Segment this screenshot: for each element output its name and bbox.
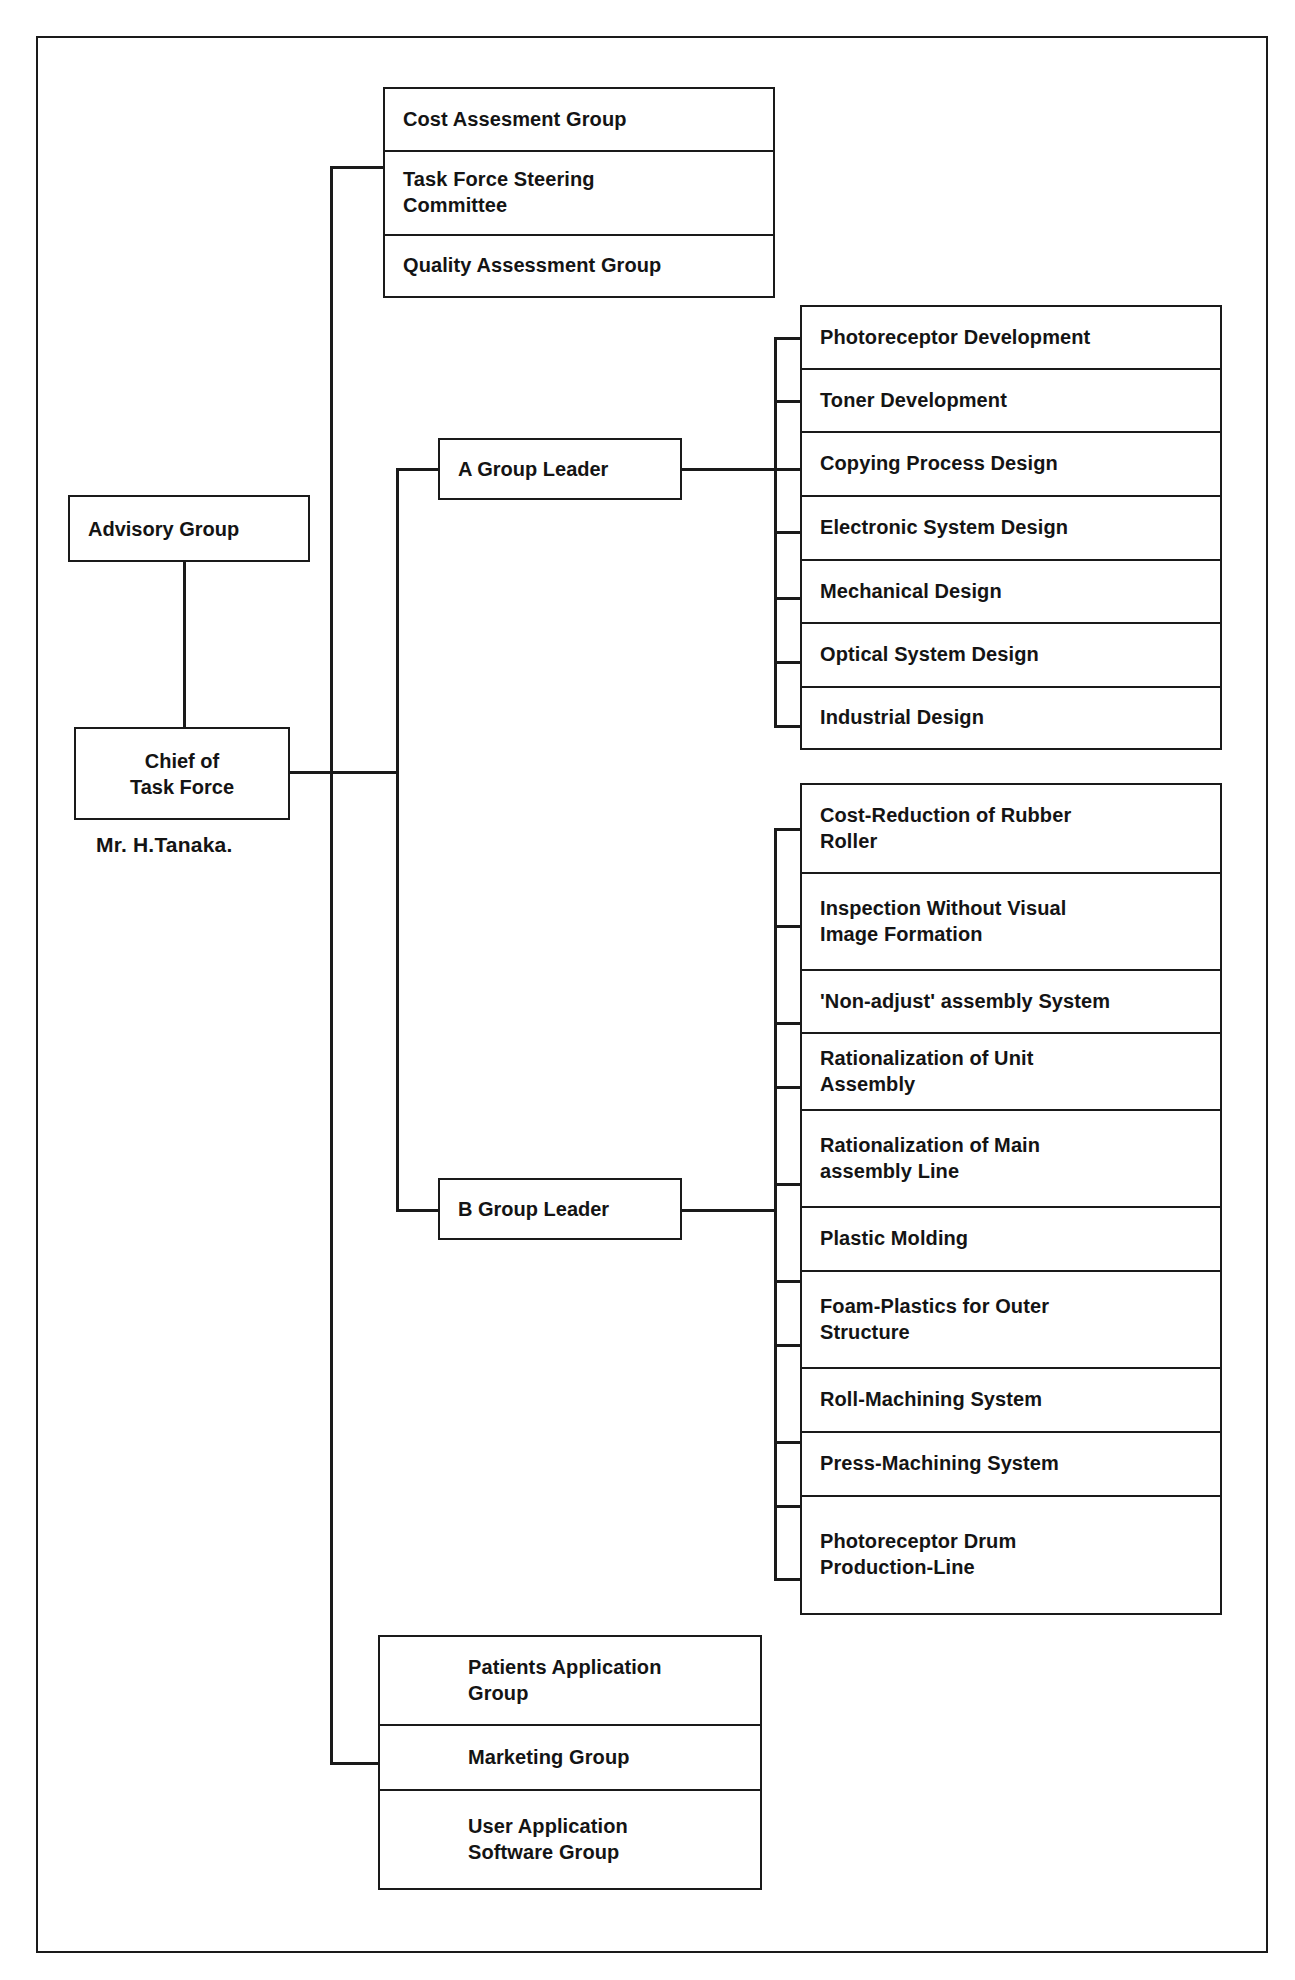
b-task-row[interactable]: Cost-Reduction of Rubber Roller: [802, 785, 1220, 874]
advisory-group-label: Advisory Group: [88, 516, 239, 542]
a-task-stub-5: [774, 597, 802, 600]
application-group-row[interactable]: Patients Application Group: [380, 1637, 760, 1726]
staff-group-row[interactable]: Cost Assesment Group: [385, 89, 773, 152]
group-leader-spine: [396, 468, 399, 1211]
b-task-stub-10: [774, 1578, 802, 1581]
b-task-row[interactable]: Press-Machining System: [802, 1433, 1220, 1497]
b-task-row[interactable]: Photoreceptor Drum Production-Line: [802, 1497, 1220, 1613]
main-spine: [330, 166, 333, 1764]
a-task-label: Electronic System Design: [802, 515, 1068, 541]
b-task-row[interactable]: Rationalization of Unit Assembly: [802, 1034, 1220, 1111]
b-task-label: Plastic Molding: [802, 1226, 968, 1252]
b-task-spine-lower: [774, 1209, 777, 1581]
a-task-label: Mechanical Design: [802, 579, 1002, 605]
b-task-stub-8: [774, 1441, 802, 1444]
connector-to-b-group-leader: [396, 1209, 440, 1212]
org-chart-page: Cost Assesment Group Task Force Steering…: [0, 0, 1295, 1980]
b-task-stub-6: [774, 1280, 802, 1283]
staff-group-row[interactable]: Quality Assessment Group: [385, 236, 773, 296]
connector-b-leader-to-tasks: [682, 1209, 776, 1212]
b-task-label: 'Non-adjust' assembly System: [802, 989, 1110, 1015]
staff-group-label: Task Force Steering Committee: [385, 167, 595, 218]
b-task-label: Press-Machining System: [802, 1451, 1059, 1477]
a-task-label: Photoreceptor Development: [802, 325, 1090, 351]
application-groups-list: Patients Application Group Marketing Gro…: [378, 1635, 762, 1890]
application-group-row[interactable]: Marketing Group: [380, 1726, 760, 1791]
a-task-stub-2: [774, 400, 802, 403]
b-group-leader-label: B Group Leader: [458, 1196, 609, 1222]
connector-chief-to-spine: [289, 771, 333, 774]
chief-of-task-force-label: Chief of Task Force: [130, 748, 234, 800]
staff-group-label: Cost Assesment Group: [385, 107, 627, 133]
a-task-row[interactable]: Copying Process Design: [802, 433, 1220, 497]
b-task-stub-3: [774, 1022, 802, 1025]
a-task-row[interactable]: Photoreceptor Development: [802, 307, 1220, 370]
a-task-label: Copying Process Design: [802, 451, 1058, 477]
b-task-label: Inspection Without Visual Image Formatio…: [802, 896, 1066, 947]
b-task-label: Roll-Machining System: [802, 1387, 1042, 1413]
connector-spine-to-group-spine: [330, 771, 399, 774]
a-group-leader-label: A Group Leader: [458, 456, 608, 482]
b-task-stub-1: [774, 828, 802, 831]
b-task-stub-9: [774, 1505, 802, 1508]
a-task-stub-3: [774, 468, 802, 471]
application-group-row[interactable]: User Application Software Group: [380, 1791, 760, 1888]
a-task-stub-1: [774, 337, 802, 340]
b-task-row[interactable]: Roll-Machining System: [802, 1369, 1220, 1433]
a-task-row[interactable]: Mechanical Design: [802, 561, 1220, 624]
b-task-label: Photoreceptor Drum Production-Line: [802, 1529, 1016, 1580]
b-task-label: Rationalization of Unit Assembly: [802, 1046, 1033, 1097]
b-task-row[interactable]: Plastic Molding: [802, 1208, 1220, 1272]
a-task-spine-lower: [774, 597, 777, 728]
a-task-label: Industrial Design: [802, 705, 984, 731]
b-task-spine: [774, 828, 777, 1209]
b-task-stub-5: [774, 1183, 802, 1186]
a-group-task-list: Photoreceptor Development Toner Developm…: [800, 305, 1222, 750]
a-group-leader-box[interactable]: A Group Leader: [438, 438, 682, 500]
advisory-group-box[interactable]: Advisory Group: [68, 495, 310, 562]
connector-spine-to-application-groups: [330, 1762, 380, 1765]
application-group-label: User Application Software Group: [380, 1814, 628, 1865]
b-task-label: Cost-Reduction of Rubber Roller: [802, 803, 1071, 854]
a-task-stub-7: [774, 725, 802, 728]
b-task-row[interactable]: Rationalization of Main assembly Line: [802, 1111, 1220, 1208]
b-group-task-list: Cost-Reduction of Rubber Roller Inspecti…: [800, 783, 1222, 1615]
a-task-stub-4: [774, 531, 802, 534]
application-group-label: Patients Application Group: [380, 1655, 662, 1706]
chief-name-caption: Mr. H.Tanaka.: [96, 833, 232, 857]
b-task-stub-4: [774, 1086, 802, 1089]
b-group-leader-box[interactable]: B Group Leader: [438, 1178, 682, 1240]
connector-advisory-to-chief: [183, 562, 186, 727]
b-task-stub-2: [774, 925, 802, 928]
b-task-label: Rationalization of Main assembly Line: [802, 1133, 1040, 1184]
b-task-label: Foam-Plastics for Outer Structure: [802, 1294, 1049, 1345]
b-task-row[interactable]: Foam-Plastics for Outer Structure: [802, 1272, 1220, 1369]
a-task-row[interactable]: Electronic System Design: [802, 497, 1220, 561]
a-task-row[interactable]: Industrial Design: [802, 688, 1220, 748]
staff-group-row[interactable]: Task Force Steering Committee: [385, 152, 773, 236]
staff-group-label: Quality Assessment Group: [385, 253, 661, 279]
a-task-row[interactable]: Toner Development: [802, 370, 1220, 433]
chief-of-task-force-box[interactable]: Chief of Task Force: [74, 727, 290, 820]
a-task-stub-6: [774, 661, 802, 664]
connector-to-a-group-leader: [396, 468, 440, 471]
a-task-label: Optical System Design: [802, 642, 1039, 668]
b-task-row[interactable]: 'Non-adjust' assembly System: [802, 971, 1220, 1034]
a-task-row[interactable]: Optical System Design: [802, 624, 1220, 688]
staff-groups-list: Cost Assesment Group Task Force Steering…: [383, 87, 775, 298]
application-group-label: Marketing Group: [380, 1745, 630, 1771]
b-task-row[interactable]: Inspection Without Visual Image Formatio…: [802, 874, 1220, 971]
connector-a-leader-to-tasks: [682, 468, 776, 471]
a-task-label: Toner Development: [802, 388, 1007, 414]
b-task-stub-7: [774, 1344, 802, 1347]
connector-spine-to-staff-groups: [330, 166, 385, 169]
